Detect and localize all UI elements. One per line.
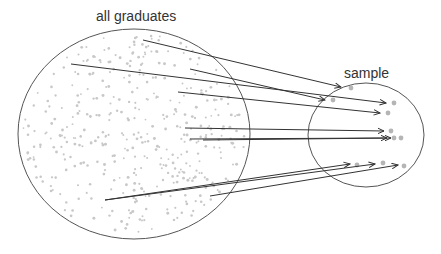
sampling-diagram xyxy=(0,0,441,254)
population-label: all graduates xyxy=(96,8,176,24)
sample-circle xyxy=(308,83,424,187)
sampling-arrows xyxy=(71,40,398,200)
sample-label: sample xyxy=(344,65,389,81)
population-dots xyxy=(23,35,246,233)
